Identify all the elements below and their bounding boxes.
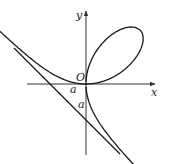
y-axis-label: y xyxy=(75,9,83,22)
y-intercept-label: a xyxy=(78,98,85,111)
x-intercept-label: a xyxy=(70,83,77,96)
x-axis-label: x xyxy=(151,86,158,99)
asymptote-line xyxy=(14,48,120,154)
origin-label: O xyxy=(76,71,85,84)
folium-diagram: y x O a a xyxy=(0,0,170,164)
